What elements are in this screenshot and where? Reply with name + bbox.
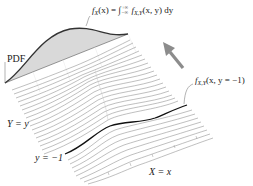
lower-limit: −∞: [122, 11, 128, 16]
marginal-leader: [86, 16, 90, 26]
peak-shading: [95, 70, 108, 120]
slice-leader: [184, 84, 193, 104]
formula-lhs-arg: (x) = ∫: [98, 5, 121, 15]
y-slice-label: y = −1: [35, 153, 63, 163]
x-axis-label: X = x: [149, 167, 171, 177]
slice-formula: fX,Y(x, y = −1): [195, 76, 245, 86]
projection-arrow-icon: [163, 42, 183, 68]
slice-sub: X,Y: [198, 80, 207, 86]
formula-rhs-arg: (x, y) dy: [142, 5, 173, 15]
marginal-formula: fX(x) = ∫+∞−∞ fX,Y(x, y) dy: [92, 6, 173, 16]
y-axis-label: Y = y: [7, 119, 29, 129]
pdf-axis-label: PDF: [7, 54, 25, 64]
slice-y-minus-1: [65, 105, 187, 154]
slice-arg: (x, y = −1): [206, 75, 245, 85]
